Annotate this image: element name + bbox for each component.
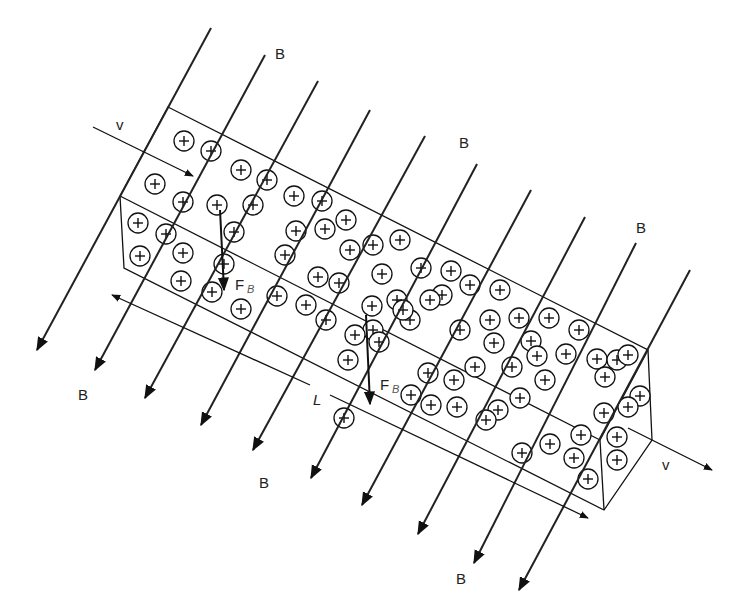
svg-text:B: B	[247, 283, 254, 295]
field-label-5: B	[259, 474, 269, 491]
force-arrow-1	[220, 210, 224, 290]
svg-text:F: F	[380, 376, 389, 393]
field-label-1: B	[275, 45, 285, 62]
velocity-label-1: v	[116, 116, 124, 133]
velocity-arrow-right	[628, 428, 712, 470]
field-label-6: B	[456, 570, 466, 587]
field-label-4: B	[78, 386, 88, 403]
svg-text:B: B	[392, 383, 399, 395]
svg-text:F: F	[235, 276, 244, 293]
field-line-arrow	[37, 28, 211, 350]
field-label-2: B	[459, 134, 469, 151]
rod-front-right-edge	[600, 440, 604, 510]
velocity-label-2: v	[662, 456, 670, 473]
force-label-2: F B	[380, 376, 399, 395]
force-label-1: F B	[235, 276, 254, 295]
length-label: L	[313, 391, 321, 408]
field-label-3: B	[636, 219, 646, 236]
diagram-canvas: B B B B B B v v L F B F B	[0, 0, 735, 616]
